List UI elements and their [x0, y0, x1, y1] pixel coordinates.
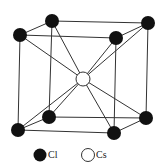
cl-atom-front-top-right [109, 31, 123, 45]
cs-atom-center [76, 72, 90, 86]
legend-cs-symbol [82, 149, 95, 162]
cl-atom-back-top-left [45, 14, 59, 28]
cl-atom-front-bottom-right [107, 126, 121, 140]
legend-cl-symbol [34, 149, 47, 162]
cl-atom-back-bottom-left [42, 110, 56, 124]
cscl-unit-cell-diagram [0, 0, 163, 168]
cl-atom-front-bottom-left [11, 123, 25, 137]
legend-cl-label: Cl [48, 150, 57, 160]
cl-atom-back-top-right [141, 16, 155, 30]
legend-cs-label: Cs [96, 150, 107, 160]
cl-atom-front-top-left [13, 28, 27, 42]
cl-atom-back-bottom-right [139, 111, 153, 125]
